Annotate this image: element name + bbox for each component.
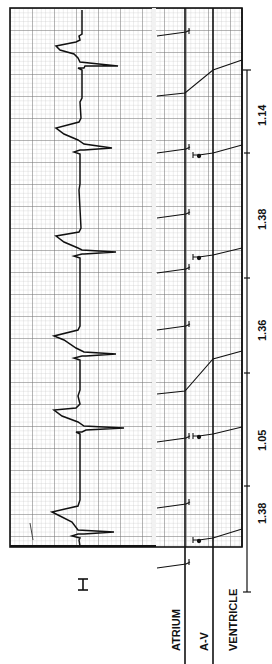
interval-label: 1.36	[256, 320, 268, 341]
ladder-label-ventricle: VENTRICLE	[227, 589, 239, 651]
interval-bracket	[243, 70, 251, 592]
ecg-ladder-figure	[0, 0, 272, 664]
interval-label: 1.38	[256, 209, 268, 230]
interval-label: 1.14	[256, 105, 268, 126]
calibration-mark	[78, 579, 88, 590]
ladder-label-atrium: ATRIUM	[170, 609, 182, 651]
ecg-grid	[10, 8, 242, 547]
interval-label: 1.38	[256, 503, 268, 524]
ladder-label-av: A-V	[198, 632, 210, 651]
interval-label: 1.05	[256, 430, 268, 451]
